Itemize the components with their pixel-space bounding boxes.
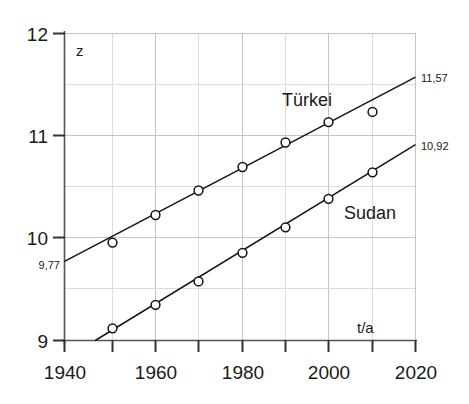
- y-tick-label-11: 11: [28, 126, 48, 147]
- series-label-turkei: Türkei: [282, 90, 332, 110]
- x-tick-label-2020: 2020: [395, 362, 437, 383]
- series-label-sudan: Sudan: [344, 203, 396, 223]
- x-axis-label: t/a: [357, 319, 374, 336]
- x-tick-label-1940: 1940: [44, 362, 86, 383]
- y-tick-label-9: 9: [37, 331, 48, 352]
- y-axis-label: z: [76, 42, 84, 59]
- data-point-sudan-1970: [194, 277, 203, 286]
- scatter-plot: 12 11 10 9 1940 1960 1980 2000 2020 z t/…: [0, 0, 469, 404]
- data-point-turkei-1990: [281, 138, 290, 147]
- x-tick-label-1960: 1960: [135, 362, 177, 383]
- x-tick-label-1980: 1980: [222, 362, 264, 383]
- annotation-turkei-intercept: 9,77: [39, 259, 60, 271]
- data-point-sudan-1950: [108, 324, 117, 333]
- data-point-turkei-1960: [151, 211, 160, 220]
- data-point-turkei-2000: [324, 118, 333, 127]
- data-point-sudan-1960: [151, 300, 160, 309]
- data-point-turkei-2010: [368, 108, 377, 117]
- y-tick-label-12: 12: [27, 24, 48, 45]
- plot-background: [0, 0, 469, 404]
- annotation-sudan-endpoint: 10,92: [421, 140, 449, 152]
- data-point-sudan-1990: [281, 223, 290, 232]
- y-tick-label-10: 10: [27, 228, 48, 249]
- data-point-sudan-2000: [324, 194, 333, 203]
- data-point-sudan-2010: [368, 168, 377, 177]
- data-point-turkei-1980: [238, 163, 247, 172]
- data-point-sudan-1980: [238, 248, 247, 257]
- x-tick-label-2000: 2000: [308, 362, 350, 383]
- annotation-turkei-endpoint: 11,57: [421, 72, 448, 84]
- data-point-turkei-1970: [194, 186, 203, 195]
- data-point-turkei-1950: [108, 238, 117, 247]
- chart-container: 12 11 10 9 1940 1960 1980 2000 2020 z t/…: [0, 0, 469, 404]
